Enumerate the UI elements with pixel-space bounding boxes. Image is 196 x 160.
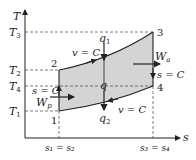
process-left-label: s = C bbox=[32, 85, 60, 96]
wa-label: Wa bbox=[155, 50, 171, 64]
point-4-label: 4 bbox=[157, 82, 163, 93]
x-tick-s3-s4: s₃ = s₄ bbox=[140, 143, 170, 153]
y-axis-label: T bbox=[13, 10, 22, 23]
q1-label: q1 bbox=[99, 32, 111, 46]
point-1-label: 1 bbox=[51, 115, 57, 126]
wp-label: Wp bbox=[36, 96, 52, 110]
process-right-label: s = C bbox=[157, 69, 185, 80]
svg-text:T4: T4 bbox=[9, 80, 21, 94]
ts-diagram: T s T3 T2 T4 T1 s₁ = s₂ s₃ = s₄ 2 3 4 1 … bbox=[0, 0, 196, 160]
q-net-label: q bbox=[100, 79, 107, 92]
x-axis-label: s bbox=[183, 131, 189, 144]
point-3-label: 3 bbox=[157, 27, 163, 38]
x-tick-s1-s2: s₁ = s₂ bbox=[45, 143, 75, 153]
process-top-label: v = C bbox=[72, 47, 100, 58]
svg-text:T1: T1 bbox=[9, 105, 21, 119]
svg-text:T2: T2 bbox=[9, 64, 21, 78]
point-2-label: 2 bbox=[51, 58, 57, 69]
q2-label: q2 bbox=[99, 112, 111, 126]
y-tick-labels: T3 T2 T4 T1 bbox=[9, 26, 21, 119]
svg-text:T3: T3 bbox=[9, 26, 21, 40]
process-bottom-label: v = C bbox=[118, 104, 146, 115]
